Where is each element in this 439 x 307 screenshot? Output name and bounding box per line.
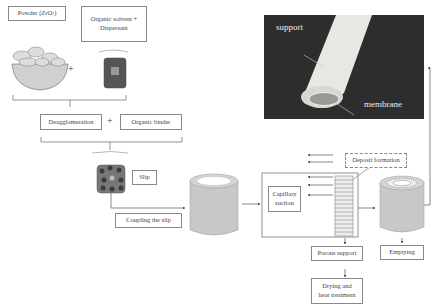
solvent-label: Organic solvent + Dispersant bbox=[81, 6, 147, 42]
solvent-line1: Organic solvent + bbox=[91, 15, 138, 24]
porous-support-box: Porous support bbox=[311, 246, 363, 261]
support-tube-icon bbox=[190, 174, 238, 235]
slip-label: Slip bbox=[132, 170, 157, 185]
drying-box: Drying and heat treatment bbox=[311, 278, 363, 304]
capillary-suction-box: Capillary suction bbox=[268, 186, 301, 212]
powder-label: Powder (ZrO2) bbox=[8, 6, 66, 21]
deagglomeration-box: Deagglomeration bbox=[40, 114, 102, 130]
plus-sign: + bbox=[68, 63, 74, 74]
drying-line1: Drying and bbox=[322, 282, 351, 291]
deposit-box: Deposit formation bbox=[345, 153, 407, 168]
plus-sign-2: + bbox=[107, 115, 113, 126]
coated-tube-icon bbox=[380, 176, 424, 232]
powder-bowl-icon bbox=[12, 47, 68, 90]
solvent-line2: Dispersant bbox=[100, 24, 128, 33]
solvent-beaker-icon bbox=[99, 50, 128, 88]
slip-beaker-icon bbox=[92, 152, 128, 194]
capillary-line2: suction bbox=[275, 199, 294, 208]
emptying-box: Emptying bbox=[380, 245, 424, 260]
capillary-line1: Capillary bbox=[272, 190, 296, 199]
drying-line2: heat treatment bbox=[319, 291, 356, 300]
powder-text: Powder (ZrO bbox=[18, 9, 52, 18]
support-label: support bbox=[276, 22, 303, 32]
organic-binder-box: Organic binder bbox=[120, 114, 182, 130]
coupling-box: Coupling the slip bbox=[115, 213, 182, 228]
powder-close: ) bbox=[54, 9, 56, 18]
membrane-label: membrane bbox=[364, 99, 402, 109]
membrane-photo: support membrane bbox=[264, 15, 424, 119]
